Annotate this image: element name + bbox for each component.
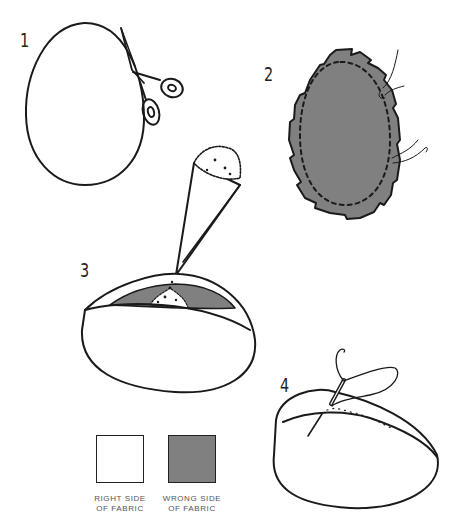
- step-4-sewn-egg-icon: [274, 390, 438, 508]
- legend-label-wrong-side: WRONG SIDE OF FABRIC: [147, 494, 237, 514]
- step-3-stuffed-egg-icon: [82, 274, 255, 392]
- sewing-diagram: 1 2 3 4: [0, 0, 462, 532]
- step-2-stitched-fabric-icon: [289, 49, 427, 219]
- legend-label-wrong-line1: WRONG SIDE: [147, 494, 237, 504]
- legend-swatch-wrong-side: [168, 435, 216, 483]
- legend-swatch-right-side: [96, 435, 144, 483]
- legend-label-wrong-line2: OF FABRIC: [147, 504, 237, 514]
- funnel-cone-icon: [176, 146, 241, 275]
- illustration-layer: [0, 0, 462, 532]
